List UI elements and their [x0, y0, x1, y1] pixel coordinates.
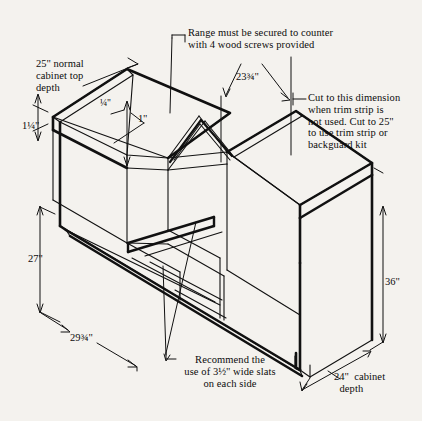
label-width-29-75: 29¾'' — [70, 332, 93, 344]
label-cut-note: Cut to this dimension when trim strip is… — [308, 92, 400, 151]
diagram-canvas: 25'' normal cabinet top depth 1¼'' ¼'' 1… — [0, 0, 422, 421]
right-cabinet-body — [300, 175, 372, 370]
label-height-27: 27'' — [28, 253, 43, 265]
label-cabinet-top-depth: 25'' normal cabinet top depth — [36, 58, 84, 93]
label-secure-note: Range must be secured to counter with 4 … — [188, 27, 333, 51]
label-slats-note: Recommend the use of 3½'' wide slats on … — [160, 354, 300, 389]
leader-secure-note — [170, 35, 185, 113]
leader-cut-note — [293, 93, 306, 105]
label-top-thickness: 1¼'' — [22, 120, 39, 132]
label-height-36: 36'' — [385, 276, 400, 288]
label-cut-width-23-75: 23¾'' — [236, 71, 259, 83]
label-gap-quarter-inch: ¼'' — [100, 98, 111, 109]
dim-thickness-1-25 — [33, 94, 48, 141]
cutout-opening — [168, 116, 234, 170]
support-rail — [128, 217, 214, 252]
label-cabinet-depth-24: 24'' cabinet depth — [334, 371, 385, 395]
label-gap-one-inch: 1'' — [138, 113, 147, 125]
dim-quarter-leader — [111, 101, 130, 166]
